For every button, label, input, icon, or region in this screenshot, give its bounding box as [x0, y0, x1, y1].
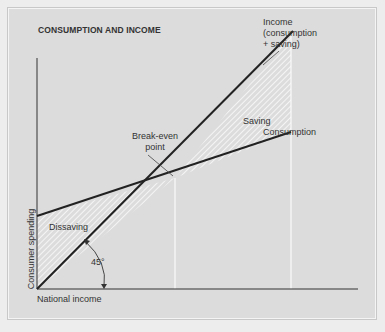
saving-label: Saving — [243, 116, 271, 127]
income-label: Income (consumption + saving) — [263, 17, 317, 50]
dissaving-region — [37, 178, 175, 289]
income-line — [37, 31, 293, 289]
x-axis-label: National income — [37, 294, 102, 305]
diagram-title: CONSUMPTION AND INCOME — [38, 25, 161, 35]
angle-label: 45° — [91, 257, 105, 268]
y-axis-label: Consumer spending — [26, 204, 36, 294]
saving-region — [175, 32, 291, 178]
consumption-label: Consumption — [263, 127, 316, 138]
dissaving-label: Dissaving — [49, 222, 88, 233]
break-even-label: Break-even point — [130, 131, 180, 153]
consumption-income-diagram — [0, 0, 385, 332]
